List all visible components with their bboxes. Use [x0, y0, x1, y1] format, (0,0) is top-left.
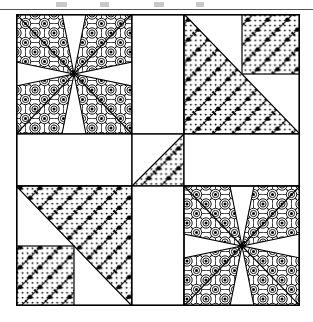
ghost-text-mark-2 [154, 2, 164, 7]
cell-middle-left-block [16, 134, 132, 186]
cropped-text-remnants [0, 0, 313, 8]
cell-center-block [132, 134, 184, 186]
corner-square-top-right [242, 14, 300, 74]
ghost-text-mark-0 [56, 2, 67, 7]
corner-square-bottom-left [16, 246, 74, 306]
cell-bottom-center-block [132, 186, 184, 306]
header-horizontal-rule [0, 9, 313, 10]
quilt-block-figure [16, 14, 300, 306]
cell-middle-right-block [184, 134, 300, 186]
plain-patch-top-center [132, 14, 184, 134]
ghost-text-mark-1 [100, 2, 109, 7]
cell-top-center-block [132, 14, 184, 134]
cell-bottom-left-block [16, 186, 132, 306]
plain-patch-bottom-center [132, 186, 184, 306]
quilt-diagram-page [0, 0, 313, 322]
cell-top-right-block [184, 14, 300, 134]
ghost-text-mark-3 [196, 2, 204, 7]
plain-patch-middle-right [184, 134, 300, 186]
plain-patch-middle-left [16, 134, 132, 186]
quilt-block-svg [16, 14, 300, 306]
